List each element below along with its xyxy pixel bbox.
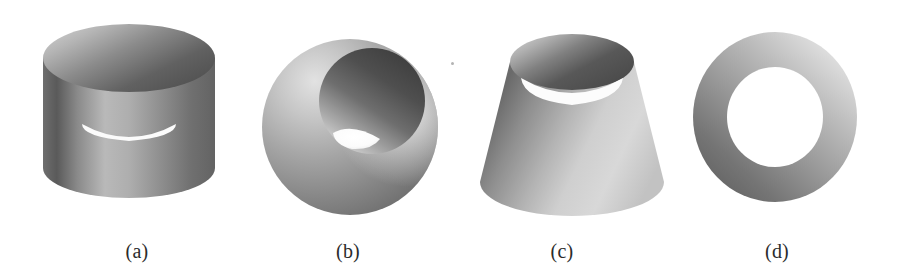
- caption-panel-a: (a): [107, 240, 167, 263]
- annulus-group: [688, 28, 864, 208]
- caption-panel-c: (c): [532, 240, 592, 263]
- figure-plate: (a) (b) (c) (d): [0, 0, 901, 280]
- annulus-drawing: [0, 0, 901, 280]
- caption-panel-d: (d): [747, 240, 807, 263]
- annulus-ring: [688, 28, 864, 208]
- caption-panel-b: (b): [318, 240, 378, 263]
- scan-speck: [451, 62, 454, 65]
